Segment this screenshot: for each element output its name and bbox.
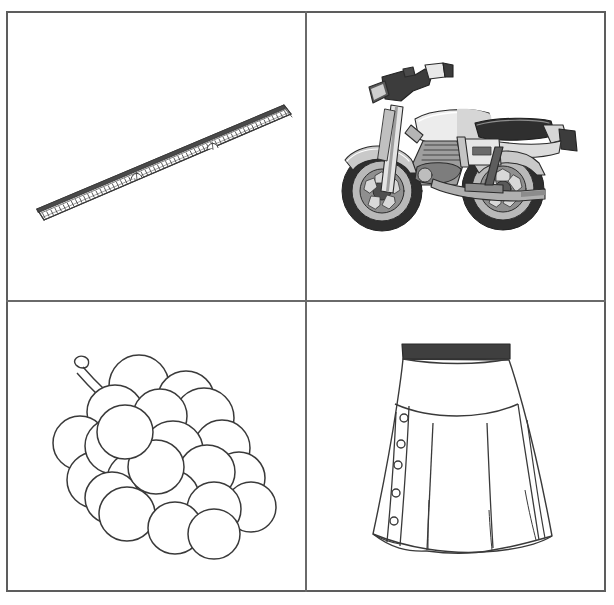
motorcycle-illustration [307, 13, 604, 300]
grapes-illustration [8, 302, 305, 590]
card-ruler[interactable] [8, 13, 305, 300]
skirt-button [392, 489, 400, 497]
card-skirt[interactable] [307, 302, 604, 590]
skirt-button [394, 461, 402, 469]
card-motorcycle[interactable] [307, 13, 604, 300]
flashcard-grid-page [0, 0, 614, 605]
skirt-button [400, 414, 408, 422]
skirt-button [390, 517, 398, 525]
card-grapes[interactable] [8, 302, 305, 590]
skirt-illustration [307, 302, 604, 590]
skirt-button [397, 440, 405, 448]
ruler-illustration [8, 13, 305, 300]
